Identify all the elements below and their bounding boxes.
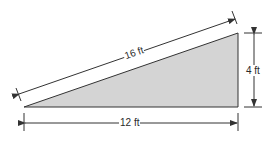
hyp-tick-left: [16, 88, 21, 101]
ramp-triangle: [24, 33, 238, 107]
hyp-tick-right: [232, 11, 237, 24]
base-label: 12 ft: [119, 117, 140, 128]
height-label: 4 ft: [245, 65, 261, 76]
